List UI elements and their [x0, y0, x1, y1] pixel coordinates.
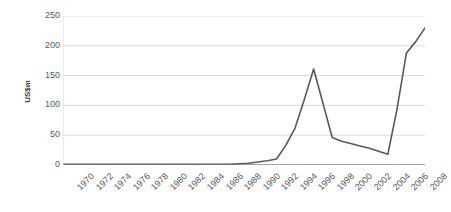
x-tick-label: 1990 [261, 171, 282, 192]
x-tick-label: 1976 [131, 171, 152, 192]
x-tick-label: 1984 [205, 171, 226, 192]
x-tick-label: 1998 [335, 171, 356, 192]
x-tick-label: 1996 [316, 171, 337, 192]
x-tick-label: 1978 [149, 171, 170, 192]
x-tick-label: 2008 [428, 171, 449, 192]
x-tick-label: 1994 [298, 171, 319, 192]
x-tick-label: 1970 [75, 171, 96, 192]
x-tick-label: 1986 [223, 171, 244, 192]
x-tick-label: 1974 [112, 171, 133, 192]
x-tick-label: 1982 [186, 171, 207, 192]
x-tick-label: 1992 [279, 171, 300, 192]
x-axis-tick-labels: 1970197219741976197819801982198419861988… [0, 0, 451, 212]
x-tick-label: 2006 [409, 171, 430, 192]
x-tick-label: 1972 [93, 171, 114, 192]
x-tick-label: 1988 [242, 171, 263, 192]
line-chart: US$m 050100150200250 1970197219741976197… [0, 0, 451, 212]
x-tick-label: 2002 [372, 171, 393, 192]
x-tick-label: 2000 [353, 171, 374, 192]
x-tick-label: 1980 [168, 171, 189, 192]
x-tick-label: 2004 [390, 171, 411, 192]
